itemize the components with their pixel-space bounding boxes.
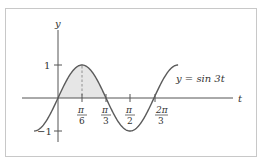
y-axis-label: y <box>54 18 61 29</box>
x-tick-label-2pi-3-den: 3 <box>158 116 164 126</box>
x-tick-label-pi-6-num: π <box>77 105 85 115</box>
y-tick-label-1: 1 <box>44 60 50 71</box>
y-tick-label-minus-1: −1 <box>37 126 52 137</box>
x-tick-label-2pi-3-num: 2π <box>155 105 169 115</box>
x-tick-label-pi-2-num: π <box>125 105 133 115</box>
sine-plot: y t 1 −1 π 6 π 3 π 2 2π 3 y = sin 3t <box>0 0 263 165</box>
x-tick-label-pi-3-num: π <box>101 105 109 115</box>
x-tick-label-pi-6-den: 6 <box>79 116 85 126</box>
x-tick-label-pi-3-den: 3 <box>103 116 109 126</box>
equation-label: y = sin 3t <box>175 73 226 84</box>
t-axis-label: t <box>238 93 243 104</box>
x-tick-label-pi-2-den: 2 <box>127 116 133 126</box>
